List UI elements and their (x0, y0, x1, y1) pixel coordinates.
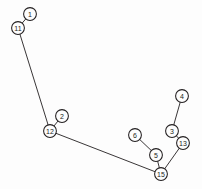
graph-node[interactable]: 15 (155, 168, 168, 181)
node-circle[interactable] (44, 125, 57, 138)
node-circle[interactable] (56, 110, 69, 123)
node-circle[interactable] (166, 125, 179, 138)
node-link-graph: 11121265151334 (0, 0, 202, 189)
graph-node[interactable]: 3 (166, 125, 179, 138)
node-circle[interactable] (176, 90, 189, 103)
graph-node[interactable]: 11 (12, 22, 25, 35)
node-circle[interactable] (150, 149, 163, 162)
graph-node[interactable]: 13 (177, 137, 190, 150)
graph-edge (18, 28, 50, 131)
graph-node[interactable]: 4 (176, 90, 189, 103)
graph-edge (50, 131, 161, 174)
graph-node[interactable]: 5 (150, 149, 163, 162)
graph-node[interactable]: 2 (56, 110, 69, 123)
node-circle[interactable] (155, 168, 168, 181)
graph-node[interactable]: 12 (44, 125, 57, 138)
node-circle[interactable] (177, 137, 190, 150)
graph-node[interactable]: 1 (24, 8, 37, 21)
node-circle[interactable] (129, 129, 142, 142)
graph-canvas: 11121265151334 (0, 0, 202, 189)
graph-node[interactable]: 6 (129, 129, 142, 142)
node-circle[interactable] (24, 8, 37, 21)
node-circle[interactable] (12, 22, 25, 35)
